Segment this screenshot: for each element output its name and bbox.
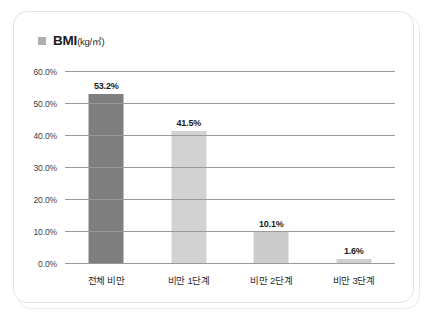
chart-legend: BMI(kg/㎡) — [38, 33, 104, 48]
chart-title-unit: (kg/㎡) — [77, 36, 104, 47]
chart-title: BMI(kg/㎡) — [53, 33, 104, 48]
chart-title-text: BMI — [53, 33, 77, 48]
square-marker-icon — [38, 37, 46, 45]
chart-card: BMI(kg/㎡) — [13, 11, 414, 303]
